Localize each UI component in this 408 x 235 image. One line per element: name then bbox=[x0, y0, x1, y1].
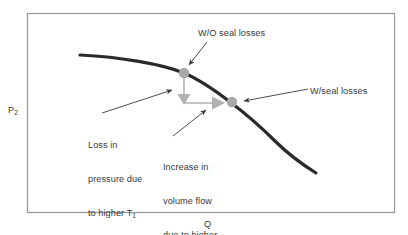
y-axis-label-subscript: 2 bbox=[14, 109, 18, 116]
callout-flow-increase-line2: volume flow bbox=[163, 196, 226, 207]
callout-pressure-loss: Loss in pressure due to higher T1 bbox=[88, 117, 142, 231]
callout-pressure-loss-line2: pressure due bbox=[88, 174, 142, 185]
callout-pressure-loss-subscript: 1 bbox=[132, 212, 136, 219]
callout-flow-increase: Increase in volume flow due to higher T1… bbox=[163, 139, 226, 235]
operating-point-with-seal-losses bbox=[227, 97, 237, 107]
callout-without-seal-losses: W/O seal losses bbox=[198, 28, 265, 39]
callout-flow-increase-line3: due to higher bbox=[163, 230, 226, 235]
callout-pressure-loss-line1: Loss in bbox=[88, 140, 142, 151]
callout-pressure-loss-line3-text: to higher T bbox=[88, 208, 132, 218]
callout-with-seal-losses: W/seal losses bbox=[310, 86, 367, 97]
operating-point-without-seal-losses bbox=[179, 68, 189, 78]
y-axis-label: P2 bbox=[8, 105, 18, 115]
callout-flow-increase-line1: Increase in bbox=[163, 162, 226, 173]
x-axis-label: Q bbox=[204, 219, 211, 229]
callout-pressure-loss-line3: to higher T1 bbox=[88, 208, 142, 219]
